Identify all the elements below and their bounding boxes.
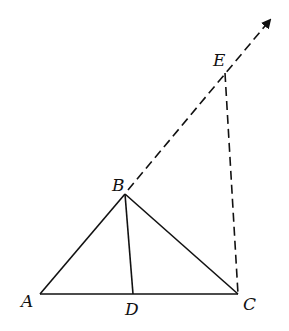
label-C: C xyxy=(243,294,256,314)
label-A: A xyxy=(19,291,33,311)
ray-BE-dashed xyxy=(128,20,270,190)
label-E: E xyxy=(212,50,226,70)
geometry-diagram: A B C D E xyxy=(0,0,289,331)
segment-AB xyxy=(40,194,125,294)
label-D: D xyxy=(124,299,139,319)
segment-BC xyxy=(125,194,238,294)
segment-BD xyxy=(125,194,133,294)
label-B: B xyxy=(111,175,125,195)
segment-EC-dashed xyxy=(225,73,238,294)
